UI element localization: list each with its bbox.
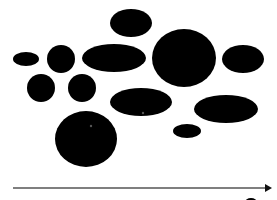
left-circle-upper: [47, 45, 75, 73]
large-circle: [152, 29, 216, 87]
left-circle-lower-a: [27, 74, 55, 102]
small-left-ellipse: [13, 52, 39, 66]
bottom-large-circle: [55, 111, 117, 167]
wide-ellipse: [82, 44, 146, 72]
diagram-canvas: [0, 0, 277, 200]
right-ellipse: [222, 45, 264, 73]
middle-ellipse: [110, 88, 172, 116]
speck-1: [90, 125, 92, 127]
right-middle-ellipse: [194, 95, 258, 123]
small-right-ellipse: [173, 124, 201, 138]
speck-0: [142, 112, 144, 114]
top-ellipse: [110, 9, 152, 37]
left-circle-lower-b: [68, 74, 96, 102]
